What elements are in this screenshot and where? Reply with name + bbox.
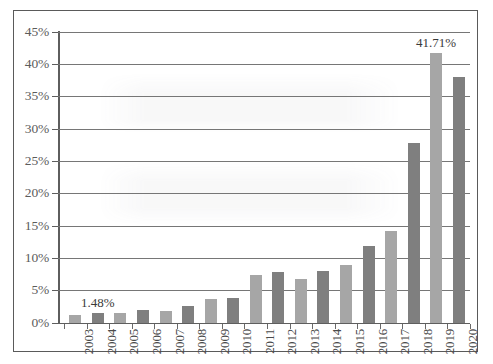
x-axis-labels-group: 2003200420052006200720082009201020112012… bbox=[58, 329, 470, 364]
gridline bbox=[58, 64, 470, 65]
y-axis-tick bbox=[52, 290, 58, 291]
bar[interactable] bbox=[385, 231, 397, 322]
y-axis-tick-label: 45% bbox=[25, 24, 49, 40]
chart-figure: 0%5%10%15%20%25%30%35%40%45% 1.48%41.71%… bbox=[13, 10, 478, 352]
y-axis-tick-label: 25% bbox=[25, 153, 49, 169]
bar[interactable] bbox=[453, 77, 465, 322]
y-axis-tick-label: 0% bbox=[31, 315, 49, 331]
y-axis-tick bbox=[52, 96, 58, 97]
x-axis-tick-label: 2018 bbox=[420, 329, 436, 354]
y-axis-tick bbox=[52, 64, 58, 65]
bar[interactable] bbox=[69, 315, 81, 322]
x-axis-line bbox=[58, 323, 470, 325]
y-axis-tick-label: 35% bbox=[25, 88, 49, 104]
y-axis-tick-label: 5% bbox=[31, 282, 49, 298]
y-axis-tick bbox=[52, 32, 58, 33]
y-axis-tick-label: 20% bbox=[25, 185, 49, 201]
plot-area: 0%5%10%15%20%25%30%35%40%45% 1.48%41.71% bbox=[58, 31, 470, 324]
y-axis-tick-label: 30% bbox=[25, 121, 49, 137]
x-axis-tick-label: 2006 bbox=[149, 329, 165, 354]
x-axis-tick-label: 2014 bbox=[329, 329, 345, 354]
y-axis-tick bbox=[52, 193, 58, 194]
gridline bbox=[58, 32, 470, 33]
y-axis-tick bbox=[52, 258, 58, 259]
x-axis-tick-label: 2019 bbox=[442, 329, 458, 354]
x-axis-tick-label: 2005 bbox=[126, 329, 142, 354]
x-axis-tick-label: 2012 bbox=[284, 329, 300, 354]
y-axis-tick-label: 15% bbox=[25, 218, 49, 234]
x-axis-tick-label: 2013 bbox=[307, 329, 323, 354]
bar-value-label: 1.48% bbox=[81, 295, 115, 311]
bar[interactable] bbox=[340, 265, 352, 323]
x-axis-tick-label: 2003 bbox=[81, 329, 97, 354]
bar[interactable] bbox=[430, 53, 442, 323]
bar[interactable] bbox=[250, 275, 262, 322]
y-axis-tick-label: 10% bbox=[25, 250, 49, 266]
x-axis-tick-label: 2007 bbox=[172, 329, 188, 354]
bar[interactable] bbox=[182, 306, 194, 323]
y-axis-tick bbox=[52, 129, 58, 130]
x-axis-tick-label: 2011 bbox=[262, 329, 278, 354]
bar[interactable] bbox=[92, 313, 104, 323]
bar[interactable] bbox=[114, 313, 126, 323]
bar[interactable] bbox=[137, 310, 149, 322]
x-axis-tick-label: 2008 bbox=[194, 329, 210, 354]
x-axis-tick-label: 2016 bbox=[375, 329, 391, 354]
y-axis-tick-label: 40% bbox=[25, 56, 49, 72]
y-axis-line bbox=[58, 31, 60, 324]
x-axis-tick-label: 2009 bbox=[217, 329, 233, 354]
bar[interactable] bbox=[227, 298, 239, 323]
bar[interactable] bbox=[408, 143, 420, 322]
y-axis-tick bbox=[52, 323, 58, 324]
bar[interactable] bbox=[272, 272, 284, 322]
y-axis-tick bbox=[52, 226, 58, 227]
y-axis-tick bbox=[52, 161, 58, 162]
gridline bbox=[58, 129, 470, 130]
bar[interactable] bbox=[317, 271, 329, 322]
x-axis-tick-label: 2004 bbox=[104, 329, 120, 354]
bar[interactable] bbox=[205, 299, 217, 323]
bar[interactable] bbox=[160, 311, 172, 323]
gridline bbox=[58, 96, 470, 97]
bar-value-label: 41.71% bbox=[416, 35, 456, 51]
x-axis-tick-label: 2017 bbox=[397, 329, 413, 354]
x-axis-tick-label: 2010 bbox=[239, 329, 255, 354]
x-axis-tick-label: 2020 bbox=[465, 329, 481, 354]
bar[interactable] bbox=[295, 279, 307, 323]
x-axis-tick-label: 2015 bbox=[352, 329, 368, 354]
bar[interactable] bbox=[363, 246, 375, 323]
